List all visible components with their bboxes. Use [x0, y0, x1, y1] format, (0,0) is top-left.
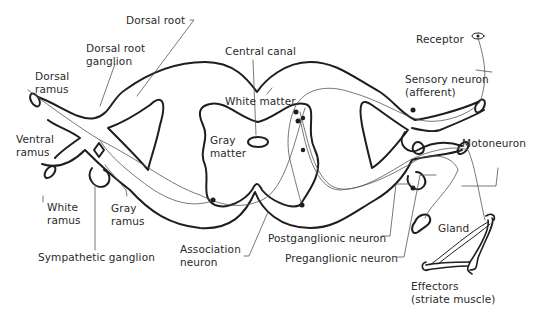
label-effectors-1: Effectors: [411, 280, 459, 292]
central-canal: [248, 137, 268, 147]
label-sympathetic-ganglion: Sympathetic ganglion: [38, 251, 155, 263]
label-gray-matter-2: matter: [210, 147, 246, 159]
gland: [412, 215, 430, 234]
label-sensory-neuron-2: (afferent): [405, 86, 456, 98]
label-white-ramus-1: White: [47, 201, 78, 213]
label-motoneuron: Motoneuron: [462, 137, 526, 149]
effector-bone-lower: [422, 262, 470, 270]
left-dorsal-horn: [108, 100, 163, 170]
label-dorsal-ramus-2: ramus: [35, 83, 69, 95]
label-central-canal: Central canal: [225, 45, 296, 57]
left-sympathetic-ganglion: [90, 168, 110, 187]
label-gray-ramus-2: ramus: [111, 215, 145, 227]
label-white-ramus-2: ramus: [47, 214, 81, 226]
label-gland: Gland: [438, 222, 469, 234]
label-dorsal-root-ganglion-2: ganglion: [86, 55, 132, 67]
label-ventral-ramus-1: Ventral: [16, 133, 54, 145]
label-white-matter: White matter: [225, 95, 296, 107]
label-gray-matter-1: Gray: [210, 134, 236, 146]
label-association-neuron-2: neuron: [180, 256, 218, 268]
right-dorsal-horn: [360, 102, 408, 168]
label-dorsal-root: Dorsal root: [126, 14, 185, 26]
effector-bone-upper: [468, 214, 495, 274]
right-sympathetic-ganglion: [408, 172, 426, 189]
ventral-ramus-end: [42, 164, 57, 180]
label-receptor: Receptor: [416, 33, 464, 45]
label-association-neuron-1: Association: [180, 243, 241, 255]
label-gray-ramus-1: Gray: [111, 202, 137, 214]
label-dorsal-ramus-1: Dorsal: [35, 70, 69, 82]
label-preganglionic-neuron: Preganglionic neuron: [285, 252, 398, 264]
label-ventral-ramus-2: ramus: [16, 146, 50, 158]
label-postganglionic-neuron: Postganglionic neuron: [268, 232, 386, 244]
label-dorsal-root-ganglion-1: Dorsal root: [86, 42, 145, 54]
left-ganglion-diamond: [94, 143, 104, 157]
sensory-nerve-end: [473, 98, 487, 114]
label-sensory-neuron-1: Sensory neuron: [405, 73, 489, 85]
label-effectors-2: (striate muscle): [411, 293, 495, 305]
